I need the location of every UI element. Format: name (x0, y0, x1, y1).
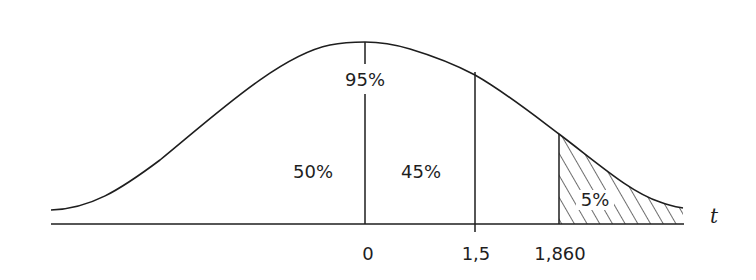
label-95-percent: 95% (345, 69, 385, 90)
tick-label-1-860: 1,860 (534, 243, 586, 264)
label-50-percent: 50% (293, 161, 333, 182)
label-45-percent: 45% (401, 161, 441, 182)
label-5-percent: 5% (581, 189, 610, 210)
tick-label-0: 0 (362, 243, 373, 264)
tick-label-1-5: 1,5 (462, 243, 491, 264)
t-distribution-diagram: 95% 50% 45% 5% t 0 1,5 1,860 (0, 0, 756, 280)
tail-region (559, 130, 689, 226)
axis-variable-t: t (710, 204, 719, 228)
